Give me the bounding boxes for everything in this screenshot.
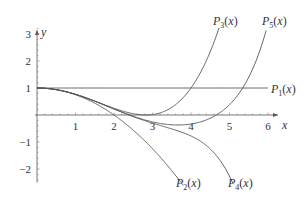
x-tick-label: 5 [227, 120, 233, 132]
curve-p4 [37, 88, 233, 184]
y-tick-label: 1 [26, 82, 32, 94]
axes: 123456−2−1123xy [19, 25, 288, 183]
curve-label-p2: P2(x) [175, 176, 201, 192]
curve-p3 [37, 28, 219, 115]
curves [37, 28, 268, 186]
curve-p5 [37, 31, 266, 125]
x-tick-label: 4 [188, 120, 194, 132]
x-tick-label: 2 [111, 120, 117, 132]
curve-label-p4: P4(x) [227, 176, 253, 192]
curve-label-p3: P3(x) [212, 14, 238, 30]
chart: 123456−2−1123xy P1(x)P2(x)P3(x)P4(x)P5(x… [0, 0, 308, 210]
x-axis-label: x [281, 118, 288, 132]
y-axis-label: y [40, 25, 47, 39]
x-tick-label: 1 [73, 120, 79, 132]
x-tick-label: 6 [265, 120, 271, 132]
y-tick-label: −2 [19, 163, 31, 175]
curve-label-p5: P5(x) [261, 14, 287, 30]
x-axis-arrow-icon [273, 113, 278, 117]
curve-p2 [37, 88, 183, 185]
curve-labels: P1(x)P2(x)P3(x)P4(x)P5(x) [175, 14, 296, 192]
y-tick-label: 3 [26, 28, 32, 40]
y-tick-label: 2 [26, 55, 32, 67]
curve-label-p1: P1(x) [270, 82, 296, 98]
y-tick-label: −1 [19, 136, 31, 148]
